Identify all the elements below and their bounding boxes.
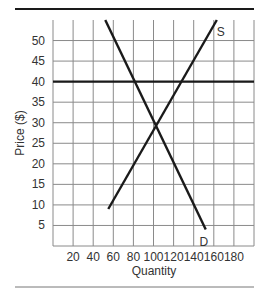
x-tick-label: 180 xyxy=(224,250,244,264)
y-tick-label: 10 xyxy=(32,198,46,212)
supply-curve xyxy=(108,20,217,209)
curve-labels: SD xyxy=(199,25,224,249)
x-tick-label: 80 xyxy=(127,250,141,264)
y-tick-label: 40 xyxy=(32,75,46,89)
x-tick-label: 40 xyxy=(87,250,101,264)
demand-curve xyxy=(105,20,205,230)
supply-demand-chart: 5101520253035404550 20406080100120140160… xyxy=(0,0,265,300)
y-tick-label: 15 xyxy=(32,177,46,191)
y-tick-label: 50 xyxy=(32,34,46,48)
y-tick-label: 35 xyxy=(32,95,46,109)
y-axis-title: Price ($) xyxy=(13,110,27,155)
curve-label-s: S xyxy=(217,25,225,39)
curve-label-d: D xyxy=(199,235,208,249)
x-tick-label: 60 xyxy=(107,250,121,264)
y-tick-label: 25 xyxy=(32,136,46,150)
x-tick-label: 20 xyxy=(66,250,80,264)
y-tick-label: 45 xyxy=(32,54,46,68)
x-tick-label: 100 xyxy=(143,250,163,264)
y-tick-label: 20 xyxy=(32,157,46,171)
y-tick-label: 30 xyxy=(32,116,46,130)
x-tick-label: 140 xyxy=(184,250,204,264)
x-tick-label: 160 xyxy=(204,250,224,264)
x-axis-ticks: 20406080100120140160180 xyxy=(66,250,244,264)
x-axis-title: Quantity xyxy=(132,264,177,278)
grid xyxy=(53,20,254,246)
y-axis-ticks: 5101520253035404550 xyxy=(32,34,46,233)
x-tick-label: 120 xyxy=(164,250,184,264)
y-tick-label: 5 xyxy=(38,218,45,232)
